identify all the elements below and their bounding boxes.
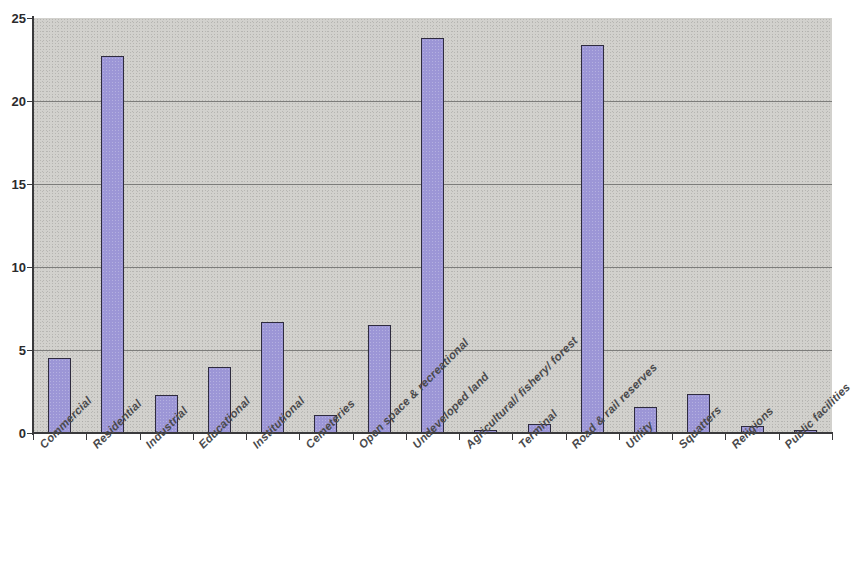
y-tick-label-0: 0 (2, 427, 26, 440)
y-axis-line (32, 16, 34, 435)
x-tick-mark-13 (725, 434, 726, 440)
x-tick-mark-8 (459, 434, 460, 440)
x-tick-mark-0 (33, 434, 34, 440)
y-tick-label-5: 5 (2, 344, 26, 357)
x-tick-mark-5 (299, 434, 300, 440)
bar-residential (101, 56, 124, 433)
y-tick-label-15: 15 (2, 178, 26, 191)
x-tick-mark-3 (193, 434, 194, 440)
y-tick-mark-5 (27, 350, 33, 351)
x-tick-mark-14 (779, 434, 780, 440)
y-tick-label-20: 20 (2, 95, 26, 108)
y-axis-tick-labels: 2520151050 (0, 0, 26, 566)
x-tick-mark-15 (832, 434, 833, 440)
bar-road-rail-reserves (581, 45, 604, 433)
y-tick-mark-10 (27, 267, 33, 268)
x-tick-mark-1 (86, 434, 87, 440)
y-tick-label-10: 10 (2, 261, 26, 274)
x-tick-mark-11 (619, 434, 620, 440)
bar-texture (102, 57, 123, 432)
y-tick-mark-15 (27, 184, 33, 185)
x-tick-mark-9 (512, 434, 513, 440)
x-tick-mark-4 (246, 434, 247, 440)
x-tick-mark-6 (353, 434, 354, 440)
x-tick-mark-10 (566, 434, 567, 440)
bar-texture (582, 46, 603, 432)
y-tick-label-25: 25 (2, 12, 26, 25)
x-tick-mark-7 (406, 434, 407, 440)
x-tick-mark-2 (140, 434, 141, 440)
x-tick-mark-12 (672, 434, 673, 440)
y-tick-mark-20 (27, 101, 33, 102)
y-tick-mark-25 (27, 18, 33, 19)
